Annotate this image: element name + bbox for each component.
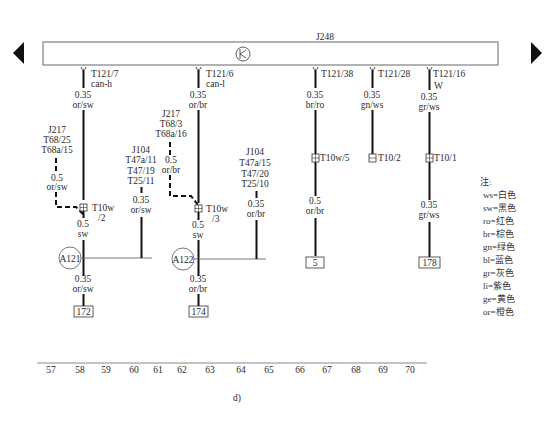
pin-label: T121/7	[91, 69, 119, 79]
legend-item: sw=黑色	[480, 202, 516, 215]
grid-number: 62	[177, 365, 187, 375]
connector-label: T10w	[92, 203, 114, 213]
legend-item: gn=绿色	[480, 241, 516, 254]
connector-icon	[369, 154, 376, 162]
wire-color-label: or/br	[189, 100, 208, 110]
color-legend: 注: ws=白色 sw=黑色 ro=红色 br=棕色 gn=绿色 bl=蓝色 g…	[480, 176, 516, 319]
wire-color-label: sw	[78, 229, 89, 239]
connector-label: /3	[212, 214, 220, 224]
transistor-symbol-icon	[236, 47, 250, 61]
connector-label: T10/2	[378, 153, 401, 163]
grid-number: 70	[405, 365, 415, 375]
pin-sublabel: W	[434, 81, 443, 91]
wire-color-label: or/br	[189, 284, 208, 294]
pin-sublabel: can-h	[91, 79, 112, 89]
legend-title: 注:	[480, 176, 516, 189]
connector-label: T10w	[206, 204, 228, 214]
splice-label: A121	[59, 254, 80, 264]
pin-label: T121/16	[433, 69, 465, 79]
source-label: J217	[48, 125, 66, 135]
wire-color-label: gr/ws	[418, 102, 439, 112]
reference-number: 5	[313, 258, 318, 268]
wire-size-label: 0.35	[248, 199, 265, 209]
wire-size-label: 0.5	[165, 155, 177, 165]
connector-icon	[80, 204, 87, 211]
figure-label: d)	[233, 393, 241, 404]
wire-color-label: sw	[193, 230, 204, 240]
reference-number: 178	[422, 258, 437, 268]
grid-numbers: 57 58 59 60 61 62 63 64 65 66 67 68 69 7…	[46, 365, 415, 375]
wire-size-label: 0.35	[421, 200, 438, 210]
wire-size-label: 0.5	[77, 219, 89, 229]
source-label: T25/11	[127, 176, 154, 186]
wire-size-label: 0.5	[192, 220, 204, 230]
source-label: J217	[162, 109, 180, 119]
wire-size-label: 0.35	[75, 274, 92, 284]
wire-size-label: 0.35	[133, 195, 150, 205]
connector-label: /2	[98, 213, 106, 223]
grid-number: 61	[153, 365, 163, 375]
source-label: T68a/16	[155, 129, 187, 139]
connector-label: T10w/5	[320, 153, 350, 163]
source-label: T68/3	[160, 119, 183, 129]
wire-color-label: or/br	[162, 165, 181, 175]
source-label: T47a/15	[239, 158, 271, 168]
connector-icon	[312, 154, 319, 162]
grid-number: 63	[205, 365, 215, 375]
source-label: T68/25	[43, 135, 71, 145]
pin-sublabel: can-l	[206, 79, 225, 89]
reference-number: 172	[76, 307, 91, 317]
grid-number: 65	[264, 365, 274, 375]
legend-item: bl=蓝色	[480, 254, 516, 267]
grid-number: 66	[295, 365, 305, 375]
pin-socket-icon	[196, 67, 201, 70]
grid-number: 67	[322, 365, 332, 375]
reference-number: 174	[191, 307, 206, 317]
legend-item: br=棕色	[480, 228, 516, 241]
wire-size-label: 0.35	[307, 90, 324, 100]
pin-socket-icon	[427, 67, 432, 70]
source-label: T47/19	[127, 166, 155, 176]
wire-size-label: 0.35	[190, 90, 207, 100]
source-label: J104	[132, 145, 150, 155]
wire-color-label: gr/ws	[418, 210, 439, 220]
pin-socket-icon	[81, 67, 86, 70]
source-label: T68a/15	[41, 145, 73, 155]
wire-color-label: br/ro	[306, 100, 325, 110]
connector-icon	[195, 205, 202, 212]
legend-item: ro=红色	[480, 215, 516, 228]
connector-label: T10/1	[434, 153, 457, 163]
legend-item: ws=白色	[480, 189, 516, 202]
wire-color-label: gn/ws	[361, 100, 384, 110]
control-unit-j248: J248	[43, 32, 498, 65]
wire-size-label: 0.35	[421, 92, 438, 102]
wire-color-label: or/br	[247, 209, 266, 219]
grid-number: 58	[75, 365, 85, 375]
legend-item: gr=灰色	[480, 267, 516, 280]
grid-number: 57	[46, 365, 56, 375]
grid-number: 60	[129, 365, 139, 375]
wire-color-label: or/sw	[72, 100, 93, 110]
pin-socket-icon	[370, 67, 375, 70]
source-label: J104	[246, 147, 264, 157]
grid-number: 64	[236, 365, 246, 375]
control-unit-label: J248	[316, 32, 334, 42]
splice-label: A122	[172, 255, 193, 265]
wire-color-label: or/sw	[72, 284, 93, 294]
grid-number: 68	[351, 365, 361, 375]
previous-page-arrow-icon[interactable]	[13, 42, 24, 64]
legend-item: ge=黄色	[480, 293, 516, 306]
wire-color-label: or/sw	[130, 205, 151, 215]
wire-size-label: 0.35	[364, 90, 381, 100]
wire-size-label: 0.5	[309, 196, 321, 206]
wire-size-label: 0.35	[75, 90, 92, 100]
next-page-arrow-icon[interactable]	[531, 42, 542, 64]
source-label: T25/10	[241, 179, 269, 189]
pin-label: T121/38	[321, 69, 353, 79]
legend-item: li=紫色	[480, 280, 516, 293]
legend-item: or=橙色	[480, 306, 516, 319]
wire-color-label: or/sw	[46, 182, 67, 192]
grid-number: 69	[378, 365, 388, 375]
wire-color-label: or/br	[306, 206, 325, 216]
connector-icon	[426, 154, 433, 162]
